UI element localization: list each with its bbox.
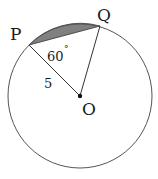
center-point (78, 94, 82, 98)
shaded-segment (29, 23, 100, 45)
circle-segment-diagram: P Q O 60 ° 5 (0, 0, 158, 179)
angle-label: 60 (47, 49, 64, 64)
radius-label: 5 (44, 76, 52, 91)
label-o: O (82, 99, 96, 119)
label-q: Q (97, 5, 111, 25)
label-p: P (10, 24, 21, 44)
degree-symbol: ° (64, 44, 69, 54)
radius-oq (80, 26, 100, 96)
